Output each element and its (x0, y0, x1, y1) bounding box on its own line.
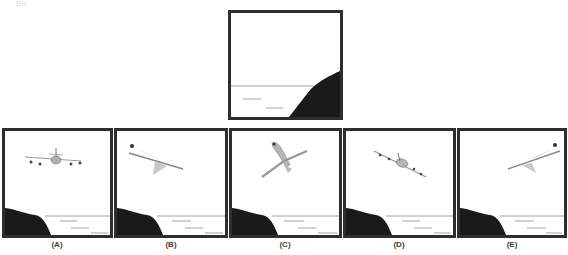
option-d-figure[interactable] (343, 128, 456, 238)
cliff-icon (117, 208, 163, 235)
cliff-icon (5, 208, 51, 235)
corner-watermark: SH (16, 0, 27, 7)
option-d-label: (D) (344, 240, 454, 249)
airplane-front-icon (25, 148, 82, 166)
airplane-side-mirrored-icon (508, 143, 560, 173)
option-e-figure[interactable] (457, 128, 567, 238)
option-a-figure[interactable] (2, 128, 113, 238)
option-b-figure[interactable] (114, 128, 228, 238)
option-c-label: (C) (230, 240, 340, 249)
cliff-icon (346, 208, 392, 235)
cliff-icon (460, 208, 506, 235)
airplane-top-icon (262, 142, 307, 177)
airplane-banking-icon (374, 151, 426, 177)
option-c-figure[interactable] (229, 128, 342, 238)
question-figure (228, 10, 343, 120)
option-b-label: (B) (116, 240, 226, 249)
cliff-icon (232, 208, 278, 235)
airplane-side-icon (129, 144, 183, 175)
option-e-label: (E) (457, 240, 567, 249)
cliff-scene-right (231, 13, 340, 117)
option-a-label: (A) (2, 240, 112, 249)
